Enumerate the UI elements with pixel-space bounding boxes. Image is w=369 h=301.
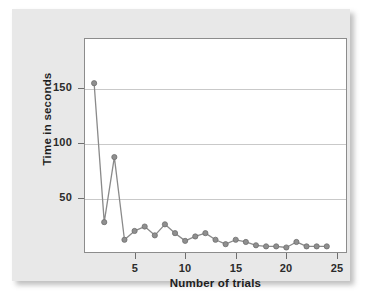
- data-point-marker: [314, 244, 319, 249]
- data-point-marker: [223, 242, 228, 247]
- y-tick-mark: [78, 143, 84, 144]
- x-tick-label: 25: [317, 262, 357, 274]
- data-point-marker: [102, 220, 107, 225]
- data-point-marker: [92, 81, 97, 86]
- x-tick-label: 20: [266, 262, 306, 274]
- x-tick-label: 10: [165, 262, 205, 274]
- data-point-marker: [294, 239, 299, 244]
- y-axis-label: Time in seconds: [41, 44, 53, 194]
- data-point-marker: [132, 228, 137, 233]
- x-tick-mark: [286, 253, 287, 259]
- chart-figure: Time in seconds Number of trials 5010015…: [0, 0, 369, 301]
- data-point-marker: [162, 222, 167, 227]
- x-tick-mark: [337, 253, 338, 259]
- y-tick-label: 150: [38, 81, 72, 93]
- data-point-marker: [172, 231, 177, 236]
- y-tick-label: 100: [38, 136, 72, 148]
- series-polyline: [94, 83, 327, 247]
- x-tick-label: 5: [115, 262, 155, 274]
- data-point-marker: [183, 238, 188, 243]
- data-point-marker: [112, 154, 117, 159]
- data-point-marker: [253, 243, 258, 248]
- x-tick-mark: [135, 253, 136, 259]
- x-tick-mark: [185, 253, 186, 259]
- x-tick-mark: [236, 253, 237, 259]
- data-point-marker: [284, 245, 289, 250]
- data-point-marker: [304, 244, 309, 249]
- data-series-line: [84, 38, 347, 253]
- data-point-marker: [233, 237, 238, 242]
- y-tick-mark: [78, 198, 84, 199]
- y-tick-mark: [78, 88, 84, 89]
- data-point-marker: [243, 239, 248, 244]
- x-axis-label: Number of trials: [84, 277, 347, 289]
- data-point-marker: [142, 224, 147, 229]
- data-point-marker: [263, 244, 268, 249]
- data-point-marker: [274, 244, 279, 249]
- data-point-marker: [324, 244, 329, 249]
- data-point-marker: [213, 237, 218, 242]
- y-tick-label: 50: [38, 191, 72, 203]
- chart-panel: Time in seconds Number of trials 5010015…: [12, 9, 350, 281]
- data-point-marker: [203, 231, 208, 236]
- data-point-marker: [122, 237, 127, 242]
- data-point-marker: [152, 233, 157, 238]
- x-tick-label: 15: [216, 262, 256, 274]
- data-point-marker: [193, 234, 198, 239]
